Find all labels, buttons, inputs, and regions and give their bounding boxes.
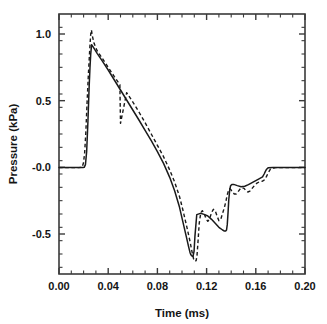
axis-frame [59,14,305,274]
x-tick-label: 0.20 [294,280,315,292]
y-tick-label: 1.0 [36,28,51,40]
series-line-dashed [59,30,305,261]
y-axis-title: Pressure (kPa) [7,104,19,185]
x-tick-label: 0.16 [245,280,266,292]
axis-tick-labels: 0.000.040.080.120.160.201.00.5-0.0-0.5 [32,28,316,292]
x-tick-label: 0.04 [97,280,119,292]
y-tick-label: 0.5 [36,95,51,107]
y-tick-label: -0.5 [32,228,51,240]
axis-ticks [59,14,305,274]
pressure-time-chart-figure: 0.000.040.080.120.160.201.00.5-0.0-0.5 T… [0,0,327,324]
y-tick-label: -0.0 [32,161,51,173]
x-tick-label: 0.12 [196,280,217,292]
x-axis-title: Time (ms) [155,307,209,319]
series-line-solid [59,45,305,257]
chart-plot-area: 0.000.040.080.120.160.201.00.5-0.0-0.5 T… [0,0,327,324]
x-tick-label: 0.08 [147,280,168,292]
x-tick-label: 0.00 [48,280,69,292]
